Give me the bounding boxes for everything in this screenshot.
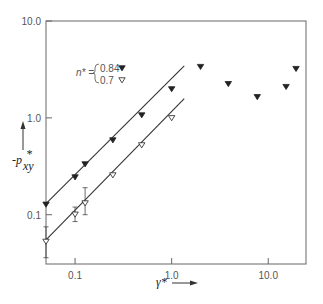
legend-marker-icon xyxy=(119,78,125,83)
open-triangle-marker xyxy=(72,212,78,217)
filled-triangle-marker xyxy=(225,82,231,87)
x-tick-label: 0.1 xyxy=(68,270,82,281)
y-tick-label: 1.0 xyxy=(27,113,41,124)
filled-triangle-marker xyxy=(139,113,145,118)
x-axis-title: γ* xyxy=(156,275,167,289)
open-triangle-marker xyxy=(168,116,174,121)
y-tick-label: 0.1 xyxy=(27,210,41,221)
y-tick-label: 10.0 xyxy=(22,16,42,27)
open-triangle-marker xyxy=(43,239,49,244)
legend-entry-label: 0.7 xyxy=(100,75,114,86)
filled-triangle-marker xyxy=(283,84,289,89)
x-axis-arrow-icon xyxy=(190,281,198,286)
fit-line xyxy=(46,99,184,240)
filled-triangle-marker xyxy=(197,64,203,69)
chart-canvas: 0.11.010.00.11.010.0γ*-p*xyn* =0.840.7 xyxy=(0,0,323,304)
y-axis-title-sub: xy xyxy=(22,159,34,173)
filled-triangle-marker xyxy=(168,87,174,92)
y-axis-title: -p xyxy=(12,153,22,167)
open-triangle-marker xyxy=(139,143,145,148)
filled-triangle-marker xyxy=(43,202,49,207)
plot-frame xyxy=(46,21,306,264)
legend-prefix: n* = xyxy=(76,67,94,78)
filled-triangle-marker xyxy=(254,95,260,100)
open-triangle-marker xyxy=(82,201,88,206)
legend-entry-label: 0.84 xyxy=(100,63,120,74)
y-axis-arrow-icon xyxy=(21,121,26,129)
fit-line xyxy=(46,66,184,204)
filled-triangle-marker xyxy=(82,162,88,167)
open-triangle-marker xyxy=(110,173,116,178)
filled-triangle-marker xyxy=(110,138,116,143)
legend-marker-icon xyxy=(119,66,125,71)
x-tick-label: 10.0 xyxy=(259,270,279,281)
x-tick-label: 1.0 xyxy=(165,270,179,281)
filled-triangle-marker xyxy=(293,66,299,71)
